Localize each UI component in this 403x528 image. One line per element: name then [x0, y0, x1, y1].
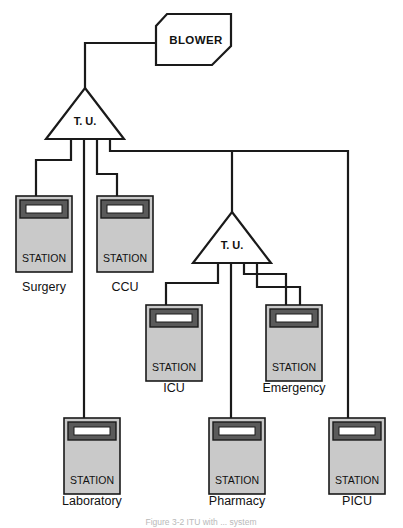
figure-container: BLOWER T. U. T. U. STATION Surgery STATI… — [0, 0, 403, 528]
transfer-unit-1[interactable]: T. U. — [46, 88, 124, 139]
station-laboratory-label: Laboratory — [62, 494, 123, 508]
station-pharmacy[interactable]: STATION Pharmacy — [209, 418, 266, 508]
station-ccu-label: CCU — [111, 280, 138, 294]
figure-caption: Figure 3-2 ITU with ... system — [146, 517, 257, 527]
station-laboratory-word: STATION — [70, 474, 114, 486]
station-picu-label: PICU — [342, 494, 372, 508]
tu-2-triangle — [193, 212, 271, 263]
station-ccu[interactable]: STATION CCU — [97, 196, 153, 294]
station-icu-label: ICU — [163, 381, 185, 395]
link-tu2-to-emergency — [244, 263, 286, 305]
station-picu-slot — [339, 427, 375, 435]
station-pharmacy-label: Pharmacy — [209, 494, 266, 508]
blower-label: BLOWER — [169, 34, 223, 46]
link-tu2-to-icu — [166, 263, 218, 305]
station-picu-word: STATION — [335, 474, 379, 486]
station-laboratory-slot — [74, 427, 110, 435]
station-surgery-label: Surgery — [22, 280, 67, 294]
station-picu[interactable]: STATION PICU — [329, 418, 385, 508]
station-pharmacy-slot — [219, 427, 255, 435]
station-pharmacy-word: STATION — [215, 474, 259, 486]
link-tu2-to-emergency-secondary — [257, 263, 300, 305]
station-ccu-word: STATION — [103, 252, 147, 264]
station-icu[interactable]: STATION ICU — [146, 305, 202, 395]
transfer-unit-2[interactable]: T. U. — [193, 212, 271, 263]
station-surgery-slot — [26, 205, 62, 213]
station-emergency-slot — [276, 314, 312, 322]
station-ccu-slot — [107, 205, 143, 213]
station-icu-word: STATION — [152, 361, 196, 373]
station-surgery-word: STATION — [22, 252, 66, 264]
station-emergency-label: Emergency — [262, 381, 326, 395]
blower-unit[interactable]: BLOWER — [156, 14, 231, 65]
tu-2-label: T. U. — [221, 239, 244, 251]
station-emergency-word: STATION — [272, 361, 316, 373]
station-icu-slot — [156, 314, 192, 322]
station-laboratory[interactable]: STATION Laboratory — [62, 418, 123, 508]
station-surgery[interactable]: STATION Surgery — [16, 196, 72, 294]
tu-1-label: T. U. — [74, 115, 97, 127]
tu-1-triangle — [46, 88, 124, 139]
station-emergency[interactable]: STATION Emergency — [262, 305, 326, 395]
pneumatic-tube-diagram: BLOWER T. U. T. U. STATION Surgery STATI… — [0, 0, 403, 528]
link-blower-to-tu1 — [85, 43, 156, 88]
link-tu1-to-surgery — [36, 139, 71, 196]
link-tu1-to-ccu — [97, 139, 117, 196]
